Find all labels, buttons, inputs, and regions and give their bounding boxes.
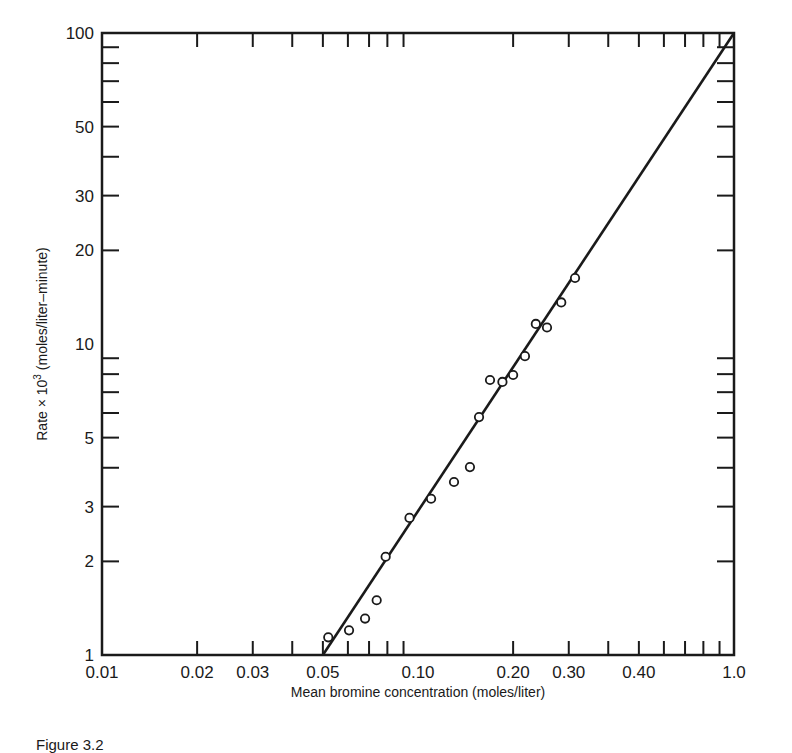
plot-frame <box>102 33 734 655</box>
y-tick-label: 1 <box>85 646 94 665</box>
y-tick-label: 50 <box>75 118 94 137</box>
x-tick-label: 0.01 <box>85 663 118 682</box>
x-tick-label: 0.05 <box>306 663 339 682</box>
x-tick-label: 0.40 <box>622 663 655 682</box>
y-tick-label: 10 <box>75 335 94 354</box>
data-point <box>475 413 483 421</box>
data-point <box>372 596 380 604</box>
x-axis-title: Mean bromine concentration (moles/liter) <box>291 684 545 700</box>
data-point <box>381 553 389 561</box>
data-point <box>532 320 540 328</box>
data-point <box>450 478 458 486</box>
y-tick-label: 3 <box>85 498 94 517</box>
x-tick-label: 0.20 <box>497 663 530 682</box>
data-point <box>543 323 551 331</box>
x-tick-labels: 0.010.020.030.050.100.200.300.401.0 <box>85 663 745 682</box>
x-tick-label: 0.03 <box>236 663 269 682</box>
data-point <box>405 514 413 522</box>
figure-caption: Figure 3.2 <box>36 736 104 753</box>
y-tick-label: 2 <box>85 552 94 571</box>
y-tick-label: 20 <box>75 241 94 260</box>
data-point <box>521 352 529 360</box>
y-tick-label: 5 <box>85 429 94 448</box>
x-tick-label: 0.02 <box>181 663 214 682</box>
x-tick-label: 0.30 <box>552 663 585 682</box>
data-point <box>486 376 494 384</box>
axis-ticks <box>102 33 734 655</box>
x-tick-label: 0.10 <box>401 663 434 682</box>
y-tick-labels: 123510203050100 <box>66 24 94 665</box>
data-point <box>557 298 565 306</box>
y-tick-label: 100 <box>66 24 94 43</box>
data-point <box>466 463 474 471</box>
x-tick-label: 1.0 <box>722 663 746 682</box>
data-point <box>571 274 579 282</box>
y-tick-label: 30 <box>75 187 94 206</box>
data-point <box>361 614 369 622</box>
data-point <box>498 378 506 386</box>
data-point <box>427 495 435 503</box>
y-axis-title: Rate × 103 (moles/liter–minute) <box>32 247 50 441</box>
data-point <box>345 626 353 634</box>
data-point <box>324 633 332 641</box>
data-point <box>509 371 517 379</box>
data-points <box>324 274 579 642</box>
